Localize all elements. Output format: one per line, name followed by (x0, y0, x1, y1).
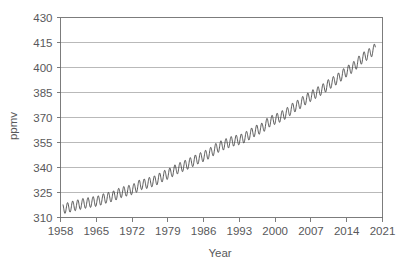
y-tick-label: 310 (33, 212, 52, 224)
x-tick-label: 1958 (48, 225, 74, 237)
x-tick-label: 2014 (334, 225, 360, 237)
y-axis-title: ppmv (7, 112, 19, 140)
x-tick-label: 1979 (155, 225, 181, 237)
x-axis-ticks (61, 218, 383, 222)
y-tick-label: 430 (33, 12, 52, 24)
co2-data-line (63, 44, 375, 213)
y-tick-label: 355 (33, 137, 52, 149)
co2-chart-figure: 310325340355370385400415430 195819651972… (0, 0, 401, 274)
y-tick-label: 340 (33, 162, 52, 174)
chart-canvas: 310325340355370385400415430 195819651972… (0, 0, 401, 274)
y-tick-label: 370 (33, 112, 52, 124)
x-tick-label: 1986 (191, 225, 217, 237)
y-tick-label: 385 (33, 87, 52, 99)
y-tick-label: 415 (33, 37, 52, 49)
x-tick-label: 1965 (83, 225, 109, 237)
gridlines-group (61, 43, 383, 193)
x-axis-tick-labels: 1958196519721979198619932000200720142021 (48, 225, 396, 237)
x-tick-label: 2007 (298, 225, 324, 237)
x-tick-label: 2000 (262, 225, 288, 237)
x-tick-label: 2021 (370, 225, 396, 237)
x-axis-title: Year (208, 247, 231, 259)
x-tick-label: 1972 (119, 225, 145, 237)
y-tick-label: 400 (33, 62, 52, 74)
y-axis-ticks (57, 18, 61, 218)
y-axis-tick-labels: 310325340355370385400415430 (33, 12, 52, 224)
x-tick-label: 1993 (227, 225, 253, 237)
y-tick-label: 325 (33, 187, 52, 199)
